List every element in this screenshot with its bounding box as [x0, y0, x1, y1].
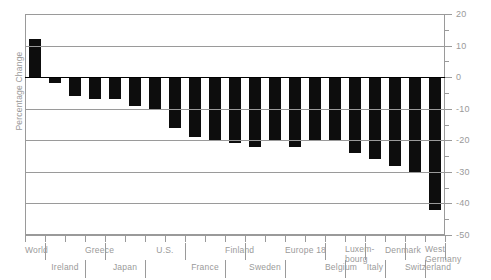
y-axis: 20100-10-20-30-40-50 [445, 0, 491, 280]
x-axis-label: Sweden [245, 262, 285, 272]
x-label-separator [85, 260, 86, 278]
x-axis-label-line: Italy [367, 262, 384, 272]
x-tick [425, 235, 426, 242]
bar [149, 77, 161, 109]
x-tick [445, 235, 446, 242]
gridline--20 [25, 140, 445, 141]
y-tick-minor [445, 30, 449, 31]
x-tick [85, 235, 86, 242]
x-axis-label: Switzerland [405, 262, 425, 272]
gridline--30 [25, 172, 445, 173]
x-axis-label-line: West [425, 244, 445, 254]
x-axis-label: Italy [365, 262, 385, 272]
bar [349, 77, 361, 153]
bar [409, 77, 421, 172]
y-tick--30 [445, 172, 452, 173]
gridline--10 [25, 109, 445, 110]
y-tick-minor [445, 93, 449, 94]
x-tick [225, 235, 226, 242]
x-tick [265, 235, 266, 242]
bar [229, 77, 241, 143]
x-axis-label: Belgium [325, 262, 345, 272]
x-label-separator [185, 243, 186, 260]
y-tick-label: 0 [456, 72, 461, 82]
bar [109, 77, 121, 99]
x-axis-label-line: Finland [225, 245, 254, 255]
x-axis-label-line: Greece [85, 245, 114, 255]
bar [389, 77, 401, 165]
bar [289, 77, 301, 146]
x-axis-label-line: Europe 18 [285, 245, 326, 255]
y-tick-0 [445, 77, 452, 78]
x-axis-label: Japan [105, 262, 145, 272]
x-label-separator [145, 260, 146, 278]
zero-line [25, 77, 445, 78]
bar [129, 77, 141, 105]
gridline--40 [25, 203, 445, 204]
y-tick--40 [445, 203, 452, 204]
x-tick [45, 235, 46, 242]
y-tick-label: -40 [456, 198, 470, 208]
y-tick-label: 10 [456, 41, 467, 51]
x-tick [405, 235, 406, 242]
x-tick [145, 235, 146, 242]
x-axis: WorldIrelandGreeceJapanU.S.FranceFinland… [25, 235, 445, 280]
bar-chart: Percentage Change 20100-10-20-30-40-50 W… [0, 0, 491, 280]
x-axis-label-line: Denmark [385, 245, 421, 255]
y-tick-label: -50 [456, 230, 470, 240]
gridline-10 [25, 46, 445, 47]
x-axis-label: France [185, 262, 225, 272]
x-tick [25, 235, 26, 242]
x-label-separator [105, 243, 106, 260]
x-tick [385, 235, 386, 242]
bar [249, 77, 261, 146]
y-tick-minor [445, 188, 449, 189]
plot-area [25, 14, 445, 235]
x-axis-label: U.S. [145, 245, 185, 255]
bar [369, 77, 381, 159]
x-tick [365, 235, 366, 242]
y-tick--10 [445, 109, 452, 110]
x-axis-label-line: Ireland [51, 262, 78, 272]
x-tick [285, 235, 286, 242]
y-tick-10 [445, 46, 452, 47]
x-tick [65, 235, 66, 242]
x-axis-label-line: U.S. [156, 245, 173, 255]
x-label-separator [285, 260, 286, 278]
x-tick [165, 235, 166, 242]
y-tick-label: -20 [456, 135, 470, 145]
x-label-separator [385, 260, 386, 278]
x-label-separator [445, 243, 446, 260]
x-axis-label-line: Sweden [249, 262, 281, 272]
x-tick [345, 235, 346, 242]
x-axis-label: World [25, 245, 45, 255]
x-axis-label: Finland [225, 245, 245, 255]
x-label-separator [405, 243, 406, 260]
y-tick--50 [445, 235, 452, 236]
x-tick [205, 235, 206, 242]
x-label-separator [245, 243, 246, 260]
gridline-20 [25, 14, 445, 15]
y-tick-minor [445, 156, 449, 157]
x-label-separator [225, 260, 226, 278]
x-label-separator [45, 243, 46, 260]
y-tick-label: 20 [456, 9, 467, 19]
x-axis-label: WestGermany [425, 245, 445, 264]
bar [69, 77, 81, 96]
x-axis-label-line: Japan [113, 262, 137, 272]
bar [429, 77, 441, 210]
bar [89, 77, 101, 99]
y-tick--20 [445, 140, 452, 141]
x-tick [305, 235, 306, 242]
x-axis-label: Europe 18 [285, 245, 325, 255]
bars-layer [25, 14, 445, 235]
y-tick-label: -30 [456, 167, 470, 177]
x-axis-label: Luxem-bourg [345, 245, 365, 264]
x-tick [325, 235, 326, 242]
x-label-separator [365, 243, 366, 260]
x-tick [105, 235, 106, 242]
x-tick [245, 235, 246, 242]
x-axis-label-line: Luxem- [345, 244, 375, 254]
bar [189, 77, 201, 137]
x-axis-label-line: Germany [425, 254, 461, 264]
